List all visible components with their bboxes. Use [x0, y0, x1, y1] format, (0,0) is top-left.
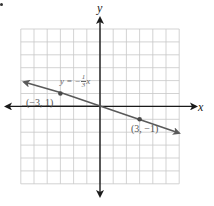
equation-prefix: y = −	[60, 76, 81, 86]
equation-var: x	[86, 76, 90, 86]
point-b	[137, 117, 142, 122]
coordinate-plane-figure: y x y = −13x (−3, 1) (3, −1)	[0, 0, 214, 206]
x-axis-label: x	[198, 101, 203, 113]
point-b-label: (3, −1)	[131, 124, 158, 134]
y-axis-label: y	[97, 2, 102, 14]
plotted-line-2	[62, 93, 179, 133]
point-a-label: (−3, 1)	[26, 98, 53, 108]
plotted-line	[24, 82, 62, 93]
point-a	[58, 91, 63, 96]
equation-label: y = −13x	[60, 74, 90, 89]
